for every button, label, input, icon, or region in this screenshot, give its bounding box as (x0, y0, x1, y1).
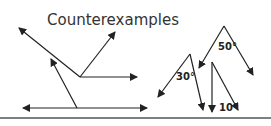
ray-from-line (51, 59, 77, 108)
counterexamples-diagram: 50° 30° 10° (0, 0, 271, 126)
three-rays-figure (19, 28, 137, 77)
ray-up-right (80, 32, 115, 77)
line-with-ray-figure (23, 59, 147, 108)
angle-10-label: 10° (219, 102, 238, 113)
angle-30-figure (158, 54, 203, 110)
angle-30-ray-right (190, 54, 203, 110)
angle-30-label: 30° (176, 71, 195, 82)
angle-50-label: 50° (218, 41, 237, 52)
ray-up-left (19, 28, 80, 77)
